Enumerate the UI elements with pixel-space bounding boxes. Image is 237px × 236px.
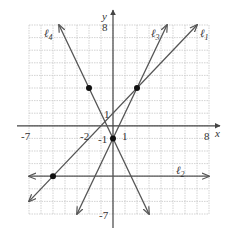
y-tick-label: 1	[104, 108, 110, 120]
x-axis-label: x	[214, 127, 220, 139]
x-tick-label: -7	[21, 130, 31, 142]
line-l3	[77, 25, 167, 214]
y-tick-label: -7	[99, 209, 109, 221]
x-tick-label: 1	[122, 130, 128, 142]
y-tick-label: 8	[102, 21, 108, 33]
labels: x y -7 -2 1 8 8 1 -1 -7 ℓ1 ℓ2 ℓ3 ℓ4	[21, 10, 220, 221]
x-tick-label: 8	[204, 130, 210, 142]
x-tick-label: -2	[80, 130, 89, 142]
axes	[17, 10, 220, 228]
line-label-l4: ℓ4	[44, 27, 53, 42]
data-point	[50, 173, 56, 179]
grid	[29, 25, 209, 214]
data-point	[86, 85, 92, 91]
y-tick-label: -1	[98, 133, 107, 145]
line-label-l1: ℓ1	[200, 27, 209, 42]
data-point	[134, 85, 140, 91]
coordinate-plane: x y -7 -2 1 8 8 1 -1 -7 ℓ1 ℓ2 ℓ3 ℓ4	[0, 0, 237, 236]
lines	[29, 25, 209, 214]
data-point	[110, 135, 116, 141]
line-label-l3: ℓ3	[151, 27, 160, 42]
